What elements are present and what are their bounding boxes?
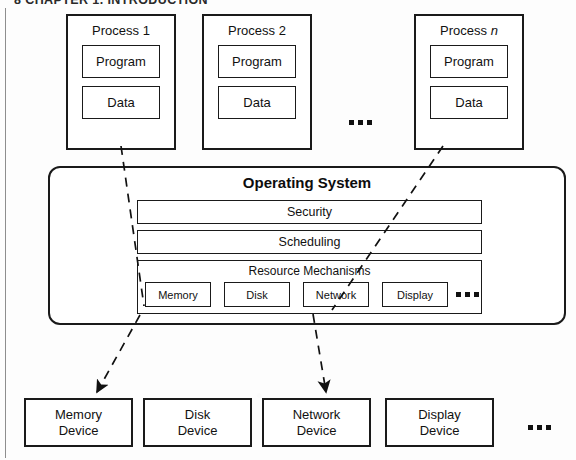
arrow-memory-mechanism-to-memory-device	[97, 315, 140, 392]
process-title: Process 2	[228, 23, 286, 38]
page-margin-rule	[5, 8, 6, 458]
resource-item-disk[interactable]: Disk	[224, 282, 290, 307]
process-box-1[interactable]: Process 1 Program Data	[66, 14, 176, 150]
operating-system-container[interactable]: Operating System Security Scheduling Res…	[48, 166, 566, 325]
process-data-box[interactable]: Data	[218, 86, 296, 119]
process-program-box[interactable]: Program	[430, 45, 508, 78]
process-data-box[interactable]: Data	[82, 86, 160, 119]
device-label-line2: Device	[59, 423, 99, 438]
device-label-line1: Display	[418, 407, 461, 422]
process-title: Process n	[440, 23, 498, 38]
device-box-display[interactable]: Display Device	[385, 398, 494, 447]
resource-row-ellipsis-icon	[456, 292, 479, 297]
page-header-text: 8 CHAPTER 1. INTRODUCTION	[14, 0, 314, 7]
device-box-disk[interactable]: Disk Device	[143, 398, 252, 447]
device-label-line2: Device	[420, 423, 460, 438]
process-box-2[interactable]: Process 2 Program Data	[202, 14, 312, 150]
device-box-network[interactable]: Network Device	[262, 398, 371, 447]
os-layer-scheduling[interactable]: Scheduling	[137, 230, 482, 254]
device-row-ellipsis-icon	[528, 425, 551, 430]
process-box-n[interactable]: Process n Program Data	[414, 14, 524, 150]
resource-item-display[interactable]: Display	[382, 282, 448, 307]
process-title: Process 1	[92, 23, 150, 38]
device-label-line1: Memory	[55, 407, 102, 422]
device-label-line2: Device	[178, 423, 218, 438]
resource-item-network[interactable]: Network	[303, 282, 369, 307]
arrow-network-mechanism-to-network-device	[313, 314, 326, 392]
device-label-line2: Device	[297, 423, 337, 438]
device-label-line1: Network	[293, 407, 341, 422]
device-label-line1: Disk	[185, 407, 210, 422]
resource-mechanisms-title: Resource Mechanisms	[138, 264, 481, 278]
operating-system-title: Operating System	[50, 174, 564, 191]
os-layer-security[interactable]: Security	[137, 200, 482, 224]
process-row-ellipsis-icon	[349, 120, 372, 125]
device-box-memory[interactable]: Memory Device	[24, 398, 133, 447]
diagram-page: 8 CHAPTER 1. INTRODUCTION Process 1 Prog…	[0, 0, 576, 460]
process-data-box[interactable]: Data	[430, 86, 508, 119]
process-program-box[interactable]: Program	[218, 45, 296, 78]
process-program-box[interactable]: Program	[82, 45, 160, 78]
resource-item-memory[interactable]: Memory	[145, 282, 211, 307]
os-layer-resource-mechanisms[interactable]: Resource Mechanisms Memory Disk Network …	[137, 260, 482, 314]
